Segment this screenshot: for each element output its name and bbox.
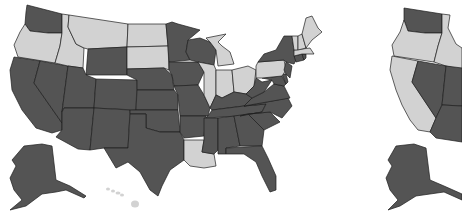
state-NY <box>258 36 296 64</box>
state-SD <box>127 46 169 70</box>
state-AK <box>10 144 86 210</box>
state-AR <box>180 116 206 138</box>
state-ND <box>127 24 168 47</box>
state-MT <box>68 15 128 49</box>
state-NM <box>90 108 130 150</box>
state-FL <box>226 146 276 192</box>
state-IA <box>169 62 204 86</box>
map-right-svg <box>370 0 462 219</box>
state-WY <box>86 47 127 75</box>
state-CO <box>94 79 137 110</box>
state-WA <box>404 8 442 33</box>
state-AZ <box>56 108 94 150</box>
us-choropleth-map-right-cropped <box>370 0 462 219</box>
state-PA <box>256 60 286 78</box>
state-ME <box>302 16 322 48</box>
state-HI <box>106 188 139 208</box>
state-WA <box>25 5 62 33</box>
map-left-svg <box>0 0 390 219</box>
state-AK <box>386 144 462 210</box>
state-MS <box>202 118 218 154</box>
state-KS <box>136 90 178 110</box>
us-choropleth-map-left <box>0 0 390 219</box>
